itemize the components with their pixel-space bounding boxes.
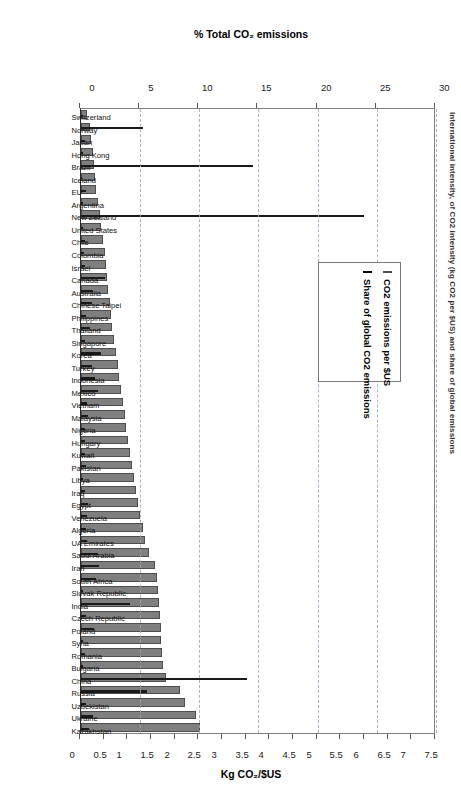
category-label: Syria bbox=[72, 639, 89, 648]
category-label: Brazil bbox=[72, 163, 91, 172]
category-label: Egypt bbox=[72, 501, 91, 510]
axis-tick-right: 4.5 bbox=[283, 749, 307, 760]
category-label: Bulgaria bbox=[72, 664, 100, 673]
legend-item-co2-per-usd: CO2 emissions per $US bbox=[382, 271, 393, 373]
bar-group[interactable] bbox=[81, 435, 434, 448]
bar-group[interactable] bbox=[81, 660, 434, 673]
axis-tickmark-right bbox=[268, 734, 269, 739]
axis-tickmark-right bbox=[126, 734, 127, 739]
axis-tick-left: 20 bbox=[305, 82, 331, 93]
bar-group[interactable] bbox=[81, 472, 434, 485]
axis-tickmark-left bbox=[79, 103, 80, 108]
bar-group[interactable] bbox=[81, 384, 434, 397]
bar-group[interactable] bbox=[81, 172, 434, 185]
bar-group[interactable] bbox=[81, 610, 434, 623]
bar-group[interactable] bbox=[81, 497, 434, 510]
bar-group[interactable] bbox=[81, 722, 434, 735]
axis-tick-right: 3.5 bbox=[235, 749, 259, 760]
category-label: Russia bbox=[72, 689, 95, 698]
bar-group[interactable] bbox=[81, 522, 434, 535]
bar-group[interactable] bbox=[81, 422, 434, 435]
axis-tickmark-left bbox=[316, 103, 317, 108]
axis-tickmark-right bbox=[197, 734, 198, 739]
bar-group[interactable] bbox=[81, 184, 434, 197]
bar-group[interactable] bbox=[81, 510, 434, 523]
bar-group[interactable] bbox=[81, 147, 434, 160]
bar-series-container bbox=[81, 109, 434, 733]
bar-group[interactable] bbox=[81, 547, 434, 560]
bar-group[interactable] bbox=[81, 485, 434, 498]
category-label: Japan bbox=[72, 138, 93, 147]
category-label: Canada bbox=[72, 276, 99, 285]
legend-swatch-gray-icon bbox=[383, 271, 392, 273]
bar-group[interactable] bbox=[81, 197, 434, 210]
bar-group[interactable] bbox=[81, 585, 434, 598]
bar-co2-per-usd[interactable] bbox=[81, 486, 136, 495]
axis-tick-right: 1 bbox=[117, 749, 141, 760]
bar-group[interactable] bbox=[81, 710, 434, 723]
category-label: Kuwait bbox=[72, 451, 95, 460]
category-label: Korea bbox=[72, 351, 92, 360]
category-label: Norway bbox=[72, 125, 98, 134]
bar-group[interactable] bbox=[81, 397, 434, 410]
bar-group[interactable] bbox=[81, 447, 434, 460]
chart-legend: CO2 emissions per $US Share of global CO… bbox=[318, 262, 401, 382]
category-label: Hungary bbox=[72, 438, 101, 447]
axis-tickmark-right bbox=[245, 734, 246, 739]
category-label: UA Emirates bbox=[72, 538, 114, 547]
bar-global-share[interactable] bbox=[81, 603, 130, 605]
legend-label-global-share: Share of global CO2 emissions bbox=[362, 279, 373, 419]
bar-group[interactable] bbox=[81, 560, 434, 573]
gridline bbox=[140, 109, 141, 733]
axis-tick-right: 0 bbox=[70, 749, 94, 760]
category-label: Singapore bbox=[72, 338, 107, 347]
bar-group[interactable] bbox=[81, 122, 434, 135]
bar-group[interactable] bbox=[81, 247, 434, 260]
axis-tickmark-left bbox=[375, 103, 376, 108]
category-label: Indonesia bbox=[72, 376, 105, 385]
gridline bbox=[377, 109, 378, 733]
bar-group[interactable] bbox=[81, 535, 434, 548]
plot-frame bbox=[80, 108, 435, 734]
bar-group[interactable] bbox=[81, 460, 434, 473]
bar-group[interactable] bbox=[81, 635, 434, 648]
bar-group[interactable] bbox=[81, 209, 434, 222]
bar-global-share[interactable] bbox=[81, 678, 247, 680]
category-label: United States bbox=[72, 225, 118, 234]
bar-group[interactable] bbox=[81, 109, 434, 122]
axis-tickmark-right bbox=[434, 734, 435, 739]
bar-group[interactable] bbox=[81, 685, 434, 698]
axis-tickmark-left bbox=[197, 103, 198, 108]
bar-group[interactable] bbox=[81, 159, 434, 172]
bar-global-share[interactable] bbox=[81, 165, 253, 167]
bar-group[interactable] bbox=[81, 134, 434, 147]
bar-global-share[interactable] bbox=[81, 215, 364, 217]
bar-group[interactable] bbox=[81, 222, 434, 235]
bar-group[interactable] bbox=[81, 647, 434, 660]
category-label: Chile bbox=[72, 238, 89, 247]
category-label: Malaysia bbox=[72, 413, 102, 422]
bar-group[interactable] bbox=[81, 409, 434, 422]
category-label: Colombia bbox=[72, 250, 104, 259]
gridline bbox=[318, 109, 319, 733]
bar-group[interactable] bbox=[81, 622, 434, 635]
axis-tick-left: 5 bbox=[128, 82, 154, 93]
bar-co2-per-usd[interactable] bbox=[81, 711, 196, 720]
bar-co2-per-usd[interactable] bbox=[81, 636, 161, 645]
gridline bbox=[436, 109, 437, 733]
category-label: India bbox=[72, 601, 88, 610]
axis-tick-left: 25 bbox=[364, 82, 390, 93]
bar-group[interactable] bbox=[81, 572, 434, 585]
bar-group[interactable] bbox=[81, 597, 434, 610]
category-label: Slovak Republic bbox=[72, 589, 126, 598]
axis-tick-right: 4 bbox=[259, 749, 283, 760]
axis-tick-left: 30 bbox=[424, 82, 450, 93]
axis-tick-right: 7 bbox=[401, 749, 425, 760]
axis-tick-right: 6 bbox=[354, 749, 378, 760]
bar-group[interactable] bbox=[81, 672, 434, 685]
category-label: New Zealand bbox=[72, 213, 117, 222]
bar-group[interactable] bbox=[81, 697, 434, 710]
bar-group[interactable] bbox=[81, 234, 434, 247]
axis-tick-right: 7.5 bbox=[425, 749, 449, 760]
axis-tickmark-right bbox=[150, 734, 151, 739]
